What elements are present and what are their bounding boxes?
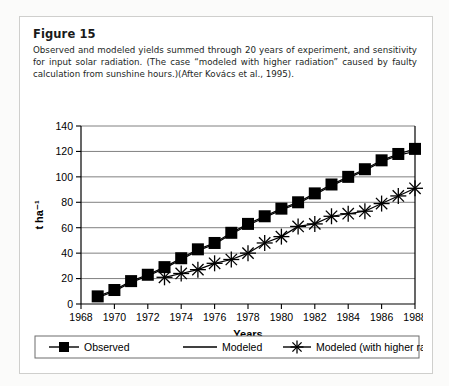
page-root: Figure 15 Observed and modeled yields su… xyxy=(0,0,449,386)
series-line-2 xyxy=(165,188,416,277)
x-tick-label: 1984 xyxy=(337,311,361,323)
series-marker-square xyxy=(175,252,187,264)
chart-svg: 0204060801001201401968197019721974197619… xyxy=(31,112,423,364)
series-marker-asterisk xyxy=(390,188,406,204)
series-marker-asterisk xyxy=(207,255,223,271)
chart: 0204060801001201401968197019721974197619… xyxy=(31,112,423,364)
y-axis-title: t ha⁻¹ xyxy=(33,200,45,230)
figure-description: Observed and modeled yields summed throu… xyxy=(33,44,417,81)
series-marker-asterisk xyxy=(157,269,173,285)
x-tick-label: 1986 xyxy=(370,311,394,323)
legend-item-label: Modeled xyxy=(222,341,262,353)
legend-marker-asterisk xyxy=(291,341,304,354)
x-tick-label: 1982 xyxy=(303,311,327,323)
figure-title: Figure 15 xyxy=(33,27,423,41)
x-tick-label: 1988 xyxy=(403,311,423,323)
series-marker-square xyxy=(409,143,421,155)
series-marker-asterisk xyxy=(307,216,323,232)
x-tick-label: 1972 xyxy=(136,311,160,323)
y-tick-label: 40 xyxy=(61,247,73,259)
series-marker-asterisk xyxy=(324,208,340,224)
y-tick-label: 100 xyxy=(55,171,73,183)
legend-item-label: Modeled (with higher radiation xyxy=(316,341,423,353)
series-marker-asterisk xyxy=(173,265,189,281)
y-tick-label: 80 xyxy=(61,196,73,208)
series-marker-square xyxy=(309,187,321,199)
series-marker-asterisk xyxy=(257,235,273,251)
series-marker-square xyxy=(108,284,120,296)
y-tick-label: 120 xyxy=(55,145,73,157)
y-tick-label: 140 xyxy=(55,120,73,132)
series-marker-asterisk xyxy=(190,262,206,278)
series-marker-asterisk xyxy=(290,218,306,234)
series-marker-square xyxy=(209,237,221,249)
series-marker-square xyxy=(292,196,304,208)
y-tick-label: 60 xyxy=(61,222,73,234)
series-marker-asterisk xyxy=(223,252,239,268)
series-marker-square xyxy=(359,163,371,175)
figure-caption: Figure 15 Observed and modeled yields su… xyxy=(33,27,423,81)
x-tick-label: 1976 xyxy=(203,311,227,323)
legend-item-label: Observed xyxy=(84,341,130,353)
series-marker-asterisk xyxy=(240,245,256,261)
figure-container: Figure 15 Observed and modeled yields su… xyxy=(19,16,433,374)
x-tick-label: 1974 xyxy=(170,311,194,323)
legend-marker-square xyxy=(59,342,69,352)
x-tick-label: 1978 xyxy=(236,311,260,323)
series-marker-asterisk xyxy=(407,180,423,196)
y-tick-label: 20 xyxy=(61,272,73,284)
series-marker-asterisk xyxy=(374,196,390,212)
x-tick-label: 1980 xyxy=(270,311,294,323)
x-tick-label: 1970 xyxy=(103,311,127,323)
x-tick-label: 1968 xyxy=(69,311,93,323)
series-marker-asterisk xyxy=(340,206,356,222)
series-marker-asterisk xyxy=(273,229,289,245)
series-marker-asterisk xyxy=(357,203,373,219)
y-tick-label: 0 xyxy=(67,298,73,310)
